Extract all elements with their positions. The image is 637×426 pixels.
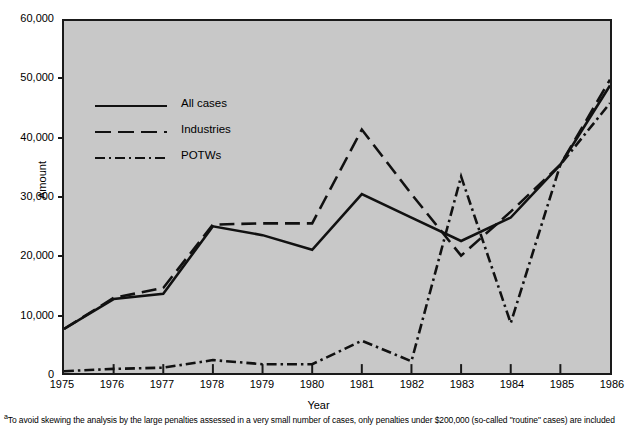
legend-label-all-cases: All cases [181,97,227,109]
legend-swatch-potws [95,156,167,160]
x-tick-label: 1984 [489,378,535,390]
y-axis-title: Amount [36,120,48,240]
legend-swatch-industries [95,130,167,134]
x-tick-label: 1985 [539,378,585,390]
y-tick-label: 20,000 [0,250,54,261]
x-tick-label: 1975 [39,378,85,390]
chart-legend: All cases Industries POTWs [95,95,285,173]
legend-label-potws: POTWs [181,149,221,161]
x-tick-label: 1986 [589,378,635,390]
chart-page: 010,00020,00030,00040,00050,00060,000 Am… [0,0,637,426]
chart-lines [64,21,610,373]
y-tick-label: 50,000 [0,72,54,83]
y-tick-label: 60,000 [0,13,54,24]
legend-label-industries: Industries [181,123,231,135]
y-tick-label: 10,000 [0,310,54,321]
legend-item-potws: POTWs [95,147,285,173]
x-tick-label: 1976 [89,378,135,390]
x-tick-label: 1979 [239,378,285,390]
x-tick-label: 1983 [439,378,485,390]
legend-item-industries: Industries [95,121,285,147]
x-axis-title: Year [0,399,637,411]
x-tick-label: 1982 [389,378,435,390]
x-tick-label: 1981 [339,378,385,390]
footnote-text: To avoid skewing the analysis by the lar… [8,415,615,425]
legend-swatch-all-cases [95,104,167,108]
plot-area [62,19,612,375]
chart-footnote: aTo avoid skewing the analysis by the la… [4,412,637,425]
x-tick-label: 1980 [289,378,335,390]
x-tick-label: 1977 [139,378,185,390]
x-tick-label: 1978 [189,378,235,390]
legend-item-all-cases: All cases [95,95,285,121]
